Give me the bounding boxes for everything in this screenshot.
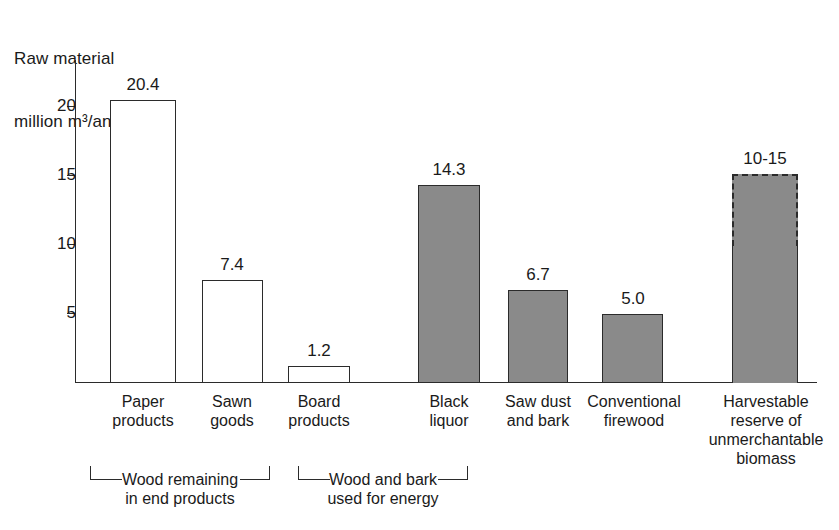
bar-value-saw-dust-and-bark: 6.7 [498,266,578,283]
category-label-board-products: Board products [273,392,365,430]
bar-sawn-goods[interactable] [202,280,263,383]
y-tick-label-10: 10 [28,235,76,252]
category-label-conventional-firewood: Conventional firewood [581,392,687,430]
bar-chart: Raw material million m³/annum 20 15 10 5… [0,0,839,530]
bar-value-conventional-firewood: 5.0 [593,290,673,307]
category-label-sawn-goods: Sawn goods [187,392,277,430]
bar-value-board-products: 1.2 [279,342,359,359]
bar-paper-products[interactable] [110,100,176,383]
bar-value-paper-products: 20.4 [103,76,183,93]
bar-board-products[interactable] [288,366,350,383]
bar-value-sawn-goods: 7.4 [192,256,272,273]
category-label-paper-products: Paper products [98,392,188,430]
y-tick-label-5: 5 [28,304,76,321]
y-tick-label-15: 15 [28,166,76,183]
category-label-black-liquor: Black liquor [404,392,494,430]
bar-value-black-liquor: 14.3 [409,161,489,178]
group-label-wood-remaining: Wood remaining in end products [100,470,260,508]
y-axis-title-line1: Raw material [14,48,145,69]
bar-harvestable-reserve-upper-range[interactable] [732,174,798,246]
category-label-harvestable-reserve: Harvestable reserve of unmerchantable bi… [700,392,832,468]
bar-value-harvestable-reserve: 10-15 [718,150,812,167]
bar-harvestable-reserve-lower[interactable] [732,244,798,383]
group-label-wood-and-bark: Wood and bark used for energy [303,470,463,508]
category-label-saw-dust-and-bark: Saw dust and bark [490,392,586,430]
bar-black-liquor[interactable] [418,185,480,383]
bar-conventional-firewood[interactable] [602,314,663,383]
y-tick-label-20: 20 [28,97,76,114]
bar-saw-dust-and-bark[interactable] [508,290,568,383]
